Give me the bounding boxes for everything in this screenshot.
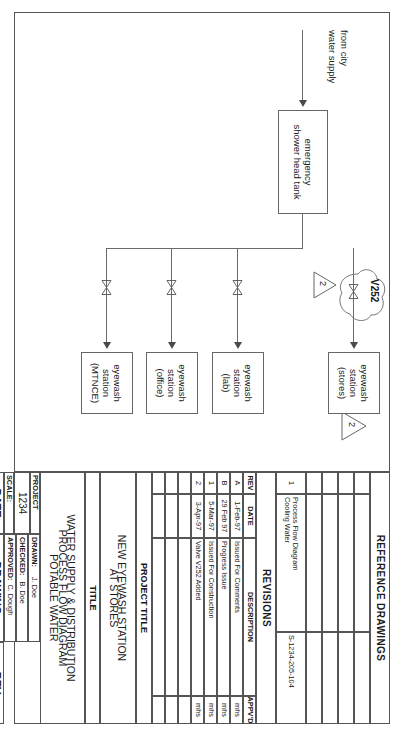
drawn-field: DRAWN: J. Doe xyxy=(28,534,40,642)
ref-row-title-3 xyxy=(322,494,338,632)
branch-line-mtnce xyxy=(106,248,107,346)
revisions-col-appvd: APPV'D xyxy=(243,696,256,724)
approved-label: APPROVED: xyxy=(6,537,15,580)
drawn-value: J. Doe xyxy=(30,577,39,598)
drawing-sheet: from city water supply emergency shower … xyxy=(0,0,406,738)
title-label: TITLE xyxy=(85,472,100,724)
reference-drawings-header: REFERENCE DRAWINGS xyxy=(370,472,390,724)
rev-row-date-blank-1 xyxy=(178,494,191,538)
rev-row-date-b: 29 Feb 97 xyxy=(217,494,230,538)
revisions-col-description: DESCRIPTION xyxy=(243,538,256,696)
revisions-col-rev: REV xyxy=(243,472,256,494)
rev-row-desc-blank-2 xyxy=(165,538,178,696)
rev-row-desc-blank-3 xyxy=(152,538,165,696)
rev-label: REV xyxy=(0,642,4,724)
ref-row-no-5 xyxy=(354,472,370,494)
project-value: 1234 xyxy=(14,472,30,534)
checked-field: CHECKED: B. Doe xyxy=(16,534,28,642)
rev-row-rev-2: 2 xyxy=(191,472,204,494)
gate-valve-icon-lab xyxy=(232,280,243,295)
rev-row-appvd-blank-1 xyxy=(178,696,191,724)
rev-row-appvd-a: mhs xyxy=(230,696,243,724)
emergency-shower-head-tank: emergency shower head tank xyxy=(278,110,328,214)
rev-row-rev-blank-2 xyxy=(165,472,178,494)
supply-arrow-icon xyxy=(299,100,307,107)
rev-row-desc-a: Issued For Comments xyxy=(230,538,243,696)
approved-field: APPROVED: C. Dough xyxy=(4,534,16,642)
checked-value: B. Doe xyxy=(18,582,27,604)
arrow-icon-stores xyxy=(350,342,358,349)
rev-row-rev-blank-3 xyxy=(152,472,165,494)
ref-row-number-1: S-1234-205-104 xyxy=(276,632,306,724)
ref-row-no-1: 1 xyxy=(276,472,306,494)
rev-row-desc-blank-1 xyxy=(178,538,191,696)
drawn-label: DRAWN: xyxy=(30,537,39,567)
rev-row-rev-a: A xyxy=(230,472,243,494)
rev-row-rev-blank-1 xyxy=(178,472,191,494)
rev-row-appvd-b: mhs xyxy=(217,696,230,724)
scale-label: SCALE: xyxy=(4,472,14,534)
arrow-icon-office xyxy=(168,342,176,349)
revisions-col-date: DATE xyxy=(243,494,256,538)
revisions-header: REVISIONS xyxy=(256,472,276,724)
arrow-icon-mtnce xyxy=(103,342,111,349)
rev-row-appvd-blank-3 xyxy=(152,696,165,724)
drawing-label: DRAWING xyxy=(0,534,4,642)
eyewash-station-office: eyewash station (office) xyxy=(146,352,198,414)
rev-row-date-a: 1-Feb-97 xyxy=(230,494,243,538)
rev-row-date-2: 3-Apr-97 xyxy=(191,494,204,538)
date-label: DATE xyxy=(0,472,4,534)
revision-triangle-free-number: 2 xyxy=(346,422,358,427)
gate-valve-icon-mtnce xyxy=(101,280,112,295)
supply-line xyxy=(302,30,303,102)
project-title-label: PROJECT TITLE xyxy=(136,472,152,724)
rev-row-desc-2: Valve V252 Added xyxy=(191,538,204,696)
branch-line-lab xyxy=(237,248,238,346)
ref-row-number-4 xyxy=(338,632,354,724)
branch-line-office xyxy=(171,248,172,346)
ref-row-number-3 xyxy=(322,632,338,724)
title-value: WATER SUPPLY & DISTRIBUTION PROCESS FLOW… xyxy=(40,472,85,724)
rev-row-appvd-2: mhs xyxy=(191,696,204,724)
process-flow-diagram: from city water supply emergency shower … xyxy=(14,12,390,472)
eyewash-station-lab: eyewash station (lab) xyxy=(212,352,264,414)
ref-row-number-5 xyxy=(354,632,370,724)
ref-row-title-5 xyxy=(354,494,370,632)
revision-triangle-cloud-number: 2 xyxy=(317,281,329,286)
rev-row-date-1: 5-Mar-97 xyxy=(204,494,217,538)
title-block: REFERENCE DRAWINGS 1 Process Flow Diagra… xyxy=(14,472,390,724)
rev-row-appvd-blank-2 xyxy=(165,696,178,724)
valve-tag-v252: V252 xyxy=(369,279,381,302)
rev-row-desc-1: Issued For Construction xyxy=(204,538,217,696)
ref-row-title-4 xyxy=(338,494,354,632)
distribution-header-line xyxy=(107,248,303,249)
ref-row-number-2 xyxy=(306,632,322,724)
rev-row-desc-b: Progress Issue xyxy=(217,538,230,696)
ref-row-title-2 xyxy=(306,494,322,632)
project-label: PROJECT xyxy=(30,472,40,534)
eyewash-station-mtnce: eyewash station (MTNCE) xyxy=(81,352,133,414)
source-label: from city water supply xyxy=(327,30,350,120)
rev-row-date-blank-3 xyxy=(152,494,165,538)
tank-outlet-line xyxy=(302,214,303,248)
eyewash-station-stores: eyewash station (stores) xyxy=(328,352,380,414)
ref-row-no-4 xyxy=(338,472,354,494)
arrow-icon-lab xyxy=(234,342,242,349)
rev-row-rev-b: B xyxy=(217,472,230,494)
project-title-value: NEW EYEWASH STATION AT STORES xyxy=(100,472,136,724)
ref-row-no-2 xyxy=(306,472,322,494)
checked-label: CHECKED: xyxy=(18,537,27,576)
ref-row-no-3 xyxy=(322,472,338,494)
gate-valve-icon-office xyxy=(166,280,177,295)
rev-row-rev-1: 1 xyxy=(204,472,217,494)
approved-value: C. Dough xyxy=(6,584,15,615)
rev-row-appvd-1: mhs xyxy=(204,696,217,724)
drawing-sheet-wrapper: from city water supply emergency shower … xyxy=(0,0,406,738)
rev-row-date-blank-2 xyxy=(165,494,178,538)
ref-row-title-1: Process Flow Diagram Cooling Water xyxy=(276,494,306,632)
